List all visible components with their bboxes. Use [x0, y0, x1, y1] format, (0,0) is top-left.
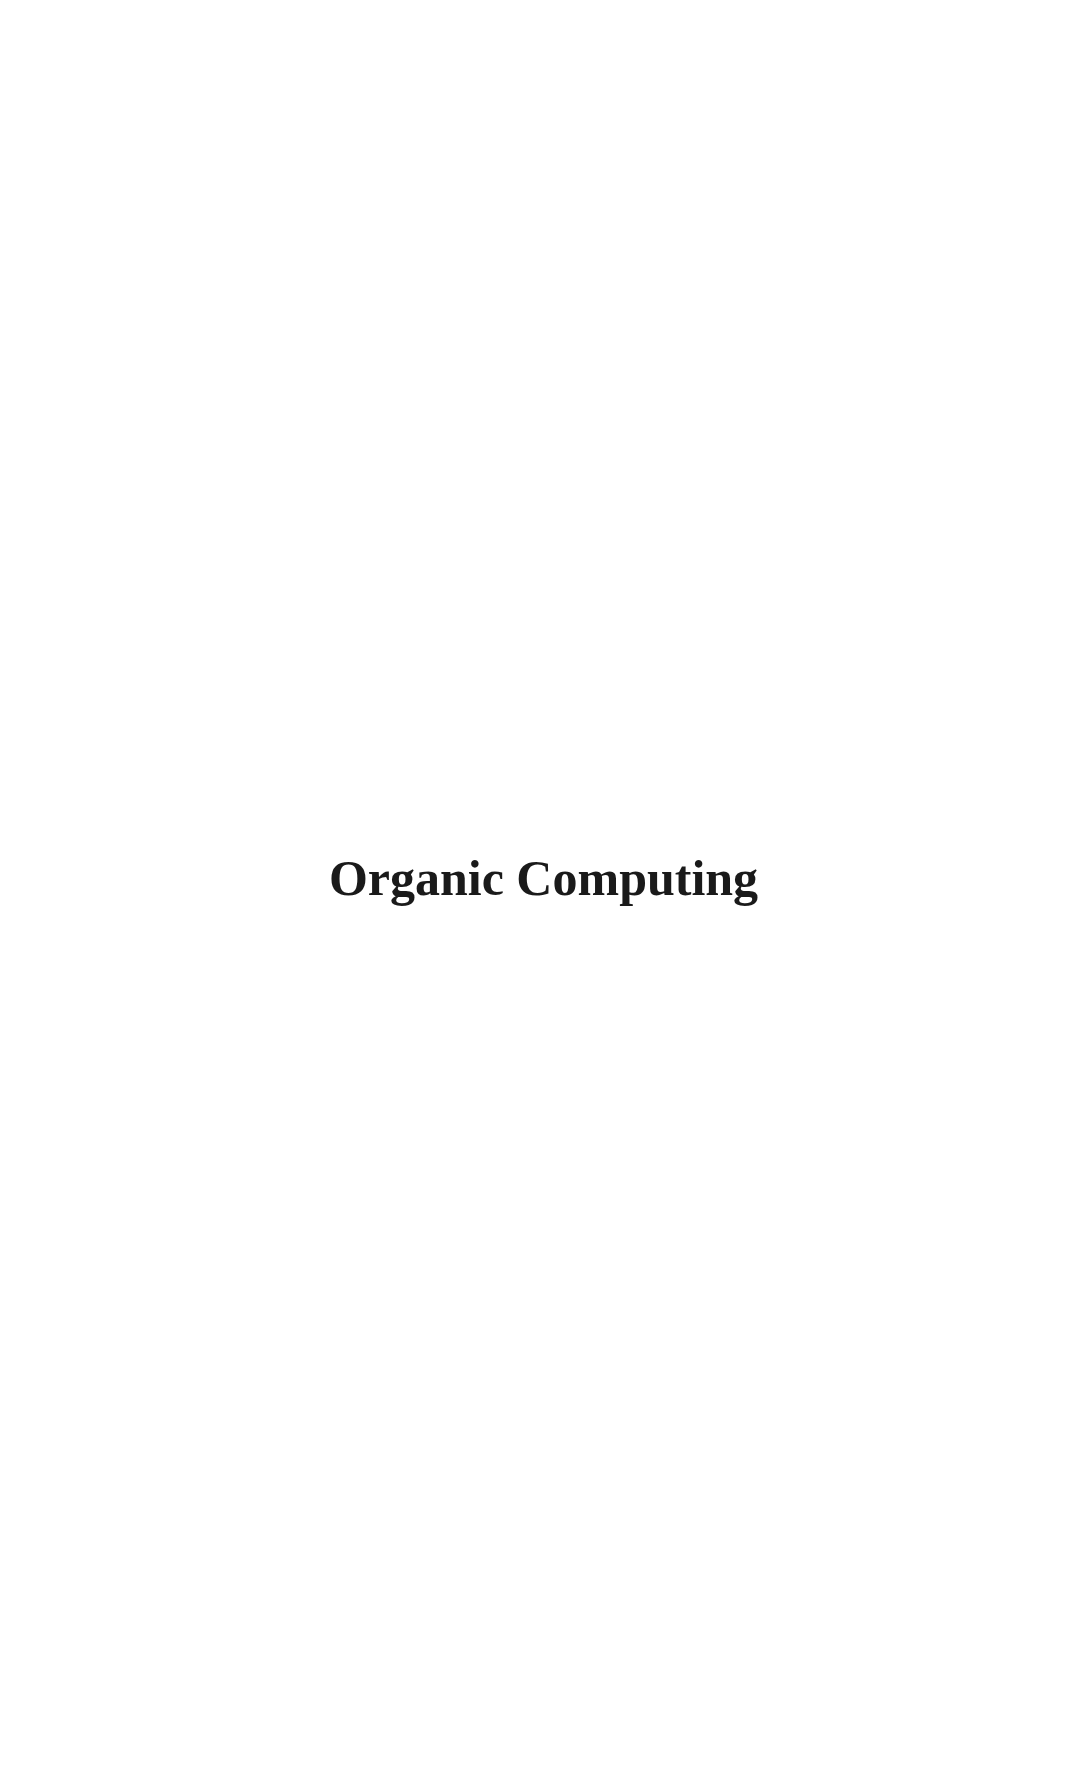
page-title: Organic Computing [0, 848, 1077, 908]
